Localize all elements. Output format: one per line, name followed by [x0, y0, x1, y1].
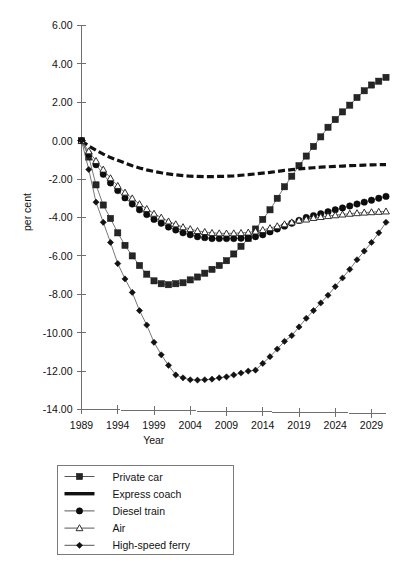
data-point-marker	[252, 234, 258, 240]
data-point-marker	[216, 235, 222, 241]
data-point-marker	[93, 182, 99, 188]
data-point-marker	[144, 211, 150, 217]
data-point-marker	[115, 230, 121, 236]
chart-figure: 6.004.002.000.00-2.00-4.00-6.00-8.00-10.…	[0, 0, 404, 564]
data-point-marker	[347, 203, 353, 209]
legend-label: Express coach	[113, 488, 182, 500]
y-axis-tick-label: -8.00	[49, 288, 73, 300]
data-point-marker	[202, 234, 208, 240]
data-point-marker	[76, 508, 82, 514]
data-point-marker	[180, 280, 186, 286]
x-axis-tick-label: 2014	[251, 419, 275, 431]
data-point-marker	[136, 207, 142, 213]
y-axis-tick-label: -2.00	[49, 173, 73, 185]
legend-item-high-speed-ferry[interactable]: High-speed ferry	[65, 539, 191, 551]
data-point-marker	[136, 201, 143, 207]
x-axis-tick-label: 2004	[179, 419, 203, 431]
data-point-marker	[318, 134, 324, 140]
data-point-marker	[144, 322, 150, 328]
data-point-marker	[158, 220, 164, 226]
y-axis-tick-label: 4.00	[52, 58, 73, 70]
data-point-marker	[383, 219, 389, 225]
y-axis-tick-label: -14.00	[43, 403, 73, 415]
legend-item-express-coach[interactable]: Express coach	[65, 488, 182, 500]
data-point-marker	[223, 374, 229, 380]
data-point-marker	[209, 235, 215, 241]
data-point-marker	[122, 276, 128, 282]
data-point-marker	[231, 251, 237, 257]
data-point-marker	[216, 375, 222, 381]
legend-label: Air	[113, 522, 126, 534]
data-point-marker	[368, 82, 374, 88]
data-point-marker	[376, 230, 382, 236]
data-point-marker	[107, 239, 113, 245]
data-point-marker	[231, 235, 237, 241]
data-point-marker	[158, 214, 165, 220]
data-point-marker	[122, 242, 128, 248]
y-axis-title: per cent	[21, 193, 33, 231]
data-point-marker	[107, 215, 113, 221]
line-chart: 6.004.002.000.00-2.00-4.00-6.00-8.00-10.…	[0, 0, 404, 564]
data-point-marker	[260, 216, 266, 222]
data-point-marker	[289, 173, 295, 179]
data-point-marker	[151, 210, 158, 216]
y-axis-tick-label: 0.00	[52, 135, 73, 147]
data-point-marker	[180, 224, 187, 230]
data-point-marker	[238, 235, 244, 241]
data-point-marker	[354, 94, 360, 100]
data-point-marker	[368, 197, 374, 203]
data-point-marker	[93, 199, 99, 205]
data-point-marker	[383, 74, 389, 80]
plot-area: 6.004.002.000.00-2.00-4.00-6.00-8.00-10.…	[21, 19, 389, 554]
legend-item-private-car[interactable]: Private car	[65, 471, 164, 483]
data-point-marker	[361, 199, 367, 205]
x-axis-tick-label: 1999	[142, 419, 166, 431]
data-point-marker	[238, 370, 244, 376]
data-point-marker	[165, 362, 171, 368]
data-point-marker	[194, 377, 200, 383]
data-point-marker	[209, 266, 215, 272]
data-point-marker	[165, 224, 171, 230]
y-axis-tick-label: -6.00	[49, 250, 73, 262]
data-point-marker	[180, 375, 186, 381]
data-point-marker	[267, 207, 273, 213]
y-axis-tick-label: 6.00	[52, 19, 73, 31]
data-point-marker	[180, 230, 186, 236]
y-axis-tick-label: -10.00	[43, 327, 73, 339]
axes: 6.004.002.000.00-2.00-4.00-6.00-8.00-10.…	[43, 19, 386, 430]
data-point-marker	[100, 219, 106, 225]
data-point-marker	[151, 216, 157, 222]
data-point-marker	[158, 281, 164, 287]
data-point-marker	[245, 368, 251, 374]
data-point-marker	[143, 205, 150, 211]
data-point-marker	[383, 193, 389, 199]
data-point-marker	[129, 195, 136, 201]
series-private-car	[78, 74, 389, 288]
data-point-marker	[136, 308, 142, 314]
legend-item-air[interactable]: Air	[65, 522, 126, 534]
y-axis-tick-label: -4.00	[49, 211, 73, 223]
series-path	[82, 141, 387, 177]
data-point-marker	[100, 202, 106, 208]
x-axis-tick-label: 2019	[287, 419, 311, 431]
data-point-marker	[187, 277, 193, 283]
data-point-marker	[194, 274, 200, 280]
data-point-marker	[376, 78, 382, 84]
data-point-marker	[151, 339, 157, 345]
data-point-marker	[303, 153, 309, 159]
data-point-marker	[151, 278, 157, 284]
data-point-marker	[187, 232, 193, 238]
data-point-marker	[194, 234, 200, 240]
legend-item-diesel-train[interactable]: Diesel train	[65, 505, 166, 517]
data-point-marker	[76, 542, 82, 548]
data-point-marker	[238, 243, 244, 249]
x-axis-line	[82, 410, 387, 414]
data-point-marker	[216, 262, 222, 268]
data-point-marker	[187, 377, 193, 383]
data-point-marker	[223, 258, 229, 264]
x-axis-title: Year	[143, 434, 165, 446]
data-point-marker	[231, 372, 237, 378]
data-point-marker	[274, 195, 280, 201]
series-air	[78, 137, 389, 236]
chart-legend[interactable]: Private carExpress coachDiesel trainAirH…	[58, 466, 234, 555]
